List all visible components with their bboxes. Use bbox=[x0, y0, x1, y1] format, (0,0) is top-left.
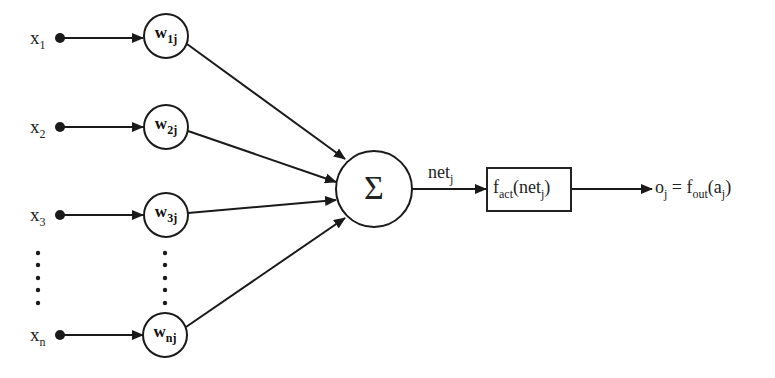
weight-label-1: w1j bbox=[144, 24, 188, 41]
ellipsis-dot bbox=[163, 276, 167, 280]
summation-symbol: Σ bbox=[336, 171, 412, 205]
input-dot-2 bbox=[55, 122, 65, 132]
weight-edge-3 bbox=[188, 200, 336, 213]
input-dot-1 bbox=[55, 33, 65, 43]
weight-edge-n bbox=[186, 218, 345, 327]
input-label-n: xn bbox=[30, 325, 46, 344]
net-label: netj bbox=[428, 163, 453, 181]
input-label-1: x1 bbox=[30, 28, 46, 47]
ellipsis-dot bbox=[163, 301, 167, 305]
weight-label-n: wnj bbox=[143, 323, 187, 340]
ellipsis-dot bbox=[163, 288, 167, 292]
weight-label-3: w3j bbox=[144, 203, 188, 220]
input-dot-3 bbox=[55, 210, 65, 220]
input-label-3: x3 bbox=[30, 205, 46, 224]
ellipsis-dot bbox=[36, 251, 40, 255]
weight-edge-1 bbox=[187, 44, 345, 159]
weight-edge-2 bbox=[188, 131, 336, 182]
input-dot-n bbox=[55, 330, 65, 340]
input-label-2: x2 bbox=[30, 117, 46, 136]
ellipsis-dot bbox=[36, 288, 40, 292]
ellipsis-dot bbox=[163, 263, 167, 267]
ellipsis-dot bbox=[36, 263, 40, 267]
ellipsis-dot bbox=[163, 251, 167, 255]
output-label: oj = fout(aj) bbox=[655, 178, 731, 196]
activation-function-label: fact(netj) bbox=[493, 178, 550, 196]
ellipsis-dot bbox=[36, 301, 40, 305]
weight-label-2: w2j bbox=[144, 115, 188, 132]
ellipsis-dot bbox=[36, 276, 40, 280]
